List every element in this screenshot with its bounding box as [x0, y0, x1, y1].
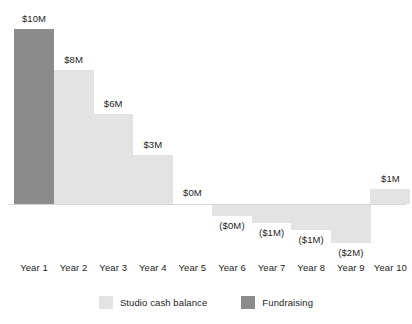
bar-value-label: $3M — [113, 139, 193, 150]
bar-group: ($0M) — [212, 205, 252, 216]
legend-entry[interactable]: Studio cash balance — [99, 296, 207, 309]
bar[interactable] — [212, 205, 252, 216]
bar-group: ($2M) — [331, 205, 371, 243]
bar-group: $8M — [54, 70, 94, 204]
bar-value-label: $6M — [73, 98, 153, 109]
bar-group: ($1M) — [252, 205, 292, 223]
bar[interactable] — [172, 203, 212, 204]
category-axis: Year 1Year 2Year 3Year 4Year 5Year 6Year… — [0, 262, 412, 278]
legend-label: Studio cash balance — [120, 297, 207, 308]
bar-group: $1M — [370, 189, 410, 204]
chart-legend: Studio cash balanceFundraising — [0, 292, 412, 312]
category-label: Year 10 — [366, 262, 412, 273]
bar[interactable] — [93, 114, 133, 204]
bar-group: ($1M) — [291, 205, 331, 230]
plot-area: $10M$8M$6M$3M$0M($0M)($1M)($1M)($2M)$1M — [0, 0, 412, 258]
bar-value-label: $8M — [34, 54, 114, 65]
bar-value-label: ($2M) — [311, 247, 391, 258]
bar[interactable] — [370, 189, 410, 204]
legend-label: Fundraising — [262, 297, 313, 308]
bar-value-label: $0M — [152, 187, 232, 198]
bar[interactable] — [252, 205, 292, 223]
legend-swatch-icon — [241, 296, 255, 309]
bar-chart: $10M$8M$6M$3M$0M($0M)($1M)($1M)($2M)$1M … — [0, 0, 412, 324]
legend-entry[interactable]: Fundraising — [241, 296, 313, 309]
bar-group: $6M — [93, 114, 133, 204]
bar-group: $0M — [172, 203, 212, 204]
bar[interactable] — [331, 205, 371, 243]
bar-value-label: $1M — [350, 173, 412, 184]
bar[interactable] — [54, 70, 94, 204]
legend-swatch-icon — [99, 296, 113, 309]
bar-value-label: $10M — [0, 13, 74, 24]
bar[interactable] — [291, 205, 331, 230]
